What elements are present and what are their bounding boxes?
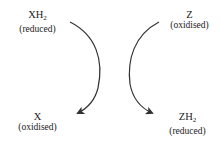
zh2-state: (reduced) [160, 126, 215, 137]
xh2-symbol: XH [28, 9, 43, 20]
z-symbol: Z [162, 9, 217, 20]
zh2-symbol: ZH [179, 111, 193, 122]
x-oxidised-label: X (oxidised) [10, 111, 65, 133]
z-oxidised-label: Z (oxidised) [162, 9, 217, 31]
xh2-subscript: 2 [43, 14, 47, 22]
right-curved-arrow [129, 22, 159, 113]
xh2-reduced-label: XH2 (reduced) [10, 9, 65, 35]
zh2-subscript: 2 [193, 116, 197, 124]
xh2-state: (reduced) [10, 24, 65, 35]
x-symbol: X [10, 111, 65, 122]
x-state: (oxidised) [10, 122, 65, 133]
zh2-reduced-label: ZH2 (reduced) [160, 111, 215, 137]
z-state: (oxidised) [162, 20, 217, 31]
left-curved-arrow [70, 22, 100, 113]
